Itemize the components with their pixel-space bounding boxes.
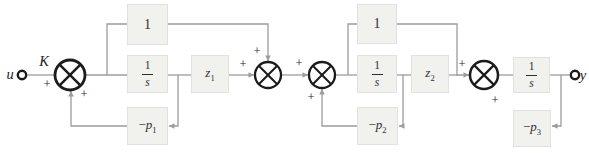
input-terminal — [18, 71, 26, 79]
plus-j4-feedback: + — [491, 94, 498, 107]
block-label: 1s — [142, 60, 153, 88]
block-label: z2 — [425, 66, 434, 82]
block-label: z1 — [205, 66, 214, 82]
plus-j1-feedback: + — [80, 88, 87, 101]
block-label: 1s — [372, 60, 383, 88]
plus-j3-input: + — [295, 57, 302, 70]
label-K: K — [39, 54, 49, 69]
wire-layer — [0, 0, 589, 153]
wire-tap-3 — [552, 75, 561, 129]
arrowhead-icon — [68, 91, 74, 97]
arrowhead-icon — [319, 89, 325, 95]
plus-j2-input: + — [239, 58, 246, 71]
wire-branch-1 — [107, 24, 127, 75]
wire-tap-1 — [169, 75, 178, 129]
block-diagram: 11s−p1z111s−p2z21s−p3uKy++++++++ — [0, 0, 589, 153]
wire-tap-2 — [399, 75, 405, 129]
arrowhead-icon — [464, 72, 470, 78]
summing-junction-4 — [470, 61, 498, 89]
wire-z1-to-j2 — [229, 72, 254, 78]
arrowhead-icon — [552, 123, 558, 129]
block-integrator-3: 1s — [513, 57, 550, 93]
block-label: 1s — [526, 61, 537, 89]
arrowhead-icon — [249, 72, 255, 78]
label-y: y — [580, 68, 586, 83]
block-label: −p3 — [523, 120, 541, 136]
block-one-1: 1 — [127, 4, 168, 45]
plus-j1-input: + — [43, 78, 50, 91]
plus-j3-feedback: + — [307, 91, 314, 104]
wire-j2-to-j3 — [281, 72, 308, 78]
block-z2: z2 — [411, 55, 449, 93]
block-neg-p1: −p1 — [127, 107, 168, 145]
block-label: 1 — [144, 18, 151, 32]
block-label: 1 — [374, 17, 381, 31]
arrowhead-icon — [399, 123, 405, 129]
label-u: u — [6, 67, 13, 82]
block-integrator-1: 1s — [127, 55, 168, 93]
arrowhead-icon — [169, 123, 175, 129]
block-z1: z1 — [191, 55, 229, 93]
output-terminal — [571, 71, 579, 79]
block-neg-p2: −p2 — [357, 107, 398, 145]
summing-junction-2 — [255, 62, 281, 88]
block-one-2: 1 — [357, 4, 397, 44]
plus-j2-top: + — [253, 45, 260, 58]
wire-p1-feedback — [68, 91, 127, 126]
arrowhead-icon — [265, 56, 271, 62]
summing-junction-1 — [55, 60, 85, 90]
block-label: −p1 — [138, 118, 156, 134]
plus-j4-input: + — [458, 58, 465, 71]
block-neg-p3: −p3 — [513, 110, 551, 147]
block-integrator-2: 1s — [357, 55, 397, 93]
wire-p2-feedback — [319, 89, 357, 126]
arrowhead-icon — [303, 72, 309, 78]
wire-branch-2 — [348, 24, 357, 75]
summing-junction-3 — [309, 62, 335, 88]
block-label: −p2 — [368, 118, 386, 134]
